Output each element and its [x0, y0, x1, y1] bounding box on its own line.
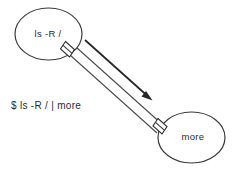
data-flow-arrow: [85, 40, 153, 101]
pipeline-diagram: ls -R / more $ ls -R / | more: [0, 0, 232, 170]
diagram-canvas: ls -R / more $ ls -R / | more: [0, 0, 232, 170]
shell-command-label: $ ls -R / | more: [11, 100, 81, 111]
pipe-edge-upper: [77, 48, 164, 126]
node-consumer[interactable]: more: [158, 112, 225, 163]
producer-label: ls -R /: [35, 28, 62, 39]
arrow-shaft: [85, 40, 147, 96]
consumer-label: more: [182, 131, 205, 142]
pipe-connector: [70, 48, 164, 134]
